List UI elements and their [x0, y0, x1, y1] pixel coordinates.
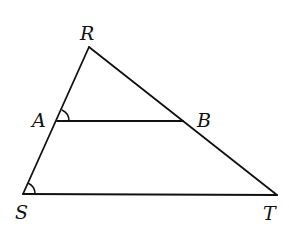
point-label-B: B [196, 109, 211, 131]
angle-mark-S [28, 183, 35, 194]
geometry-diagram: R A B S T [0, 0, 289, 230]
point-label-A: A [30, 109, 46, 131]
point-label-S: S [15, 201, 28, 223]
point-label-T: T [263, 202, 277, 224]
point-label-R: R [79, 22, 94, 44]
segment-ST [23, 194, 277, 195]
angle-mark-A [62, 110, 69, 121]
